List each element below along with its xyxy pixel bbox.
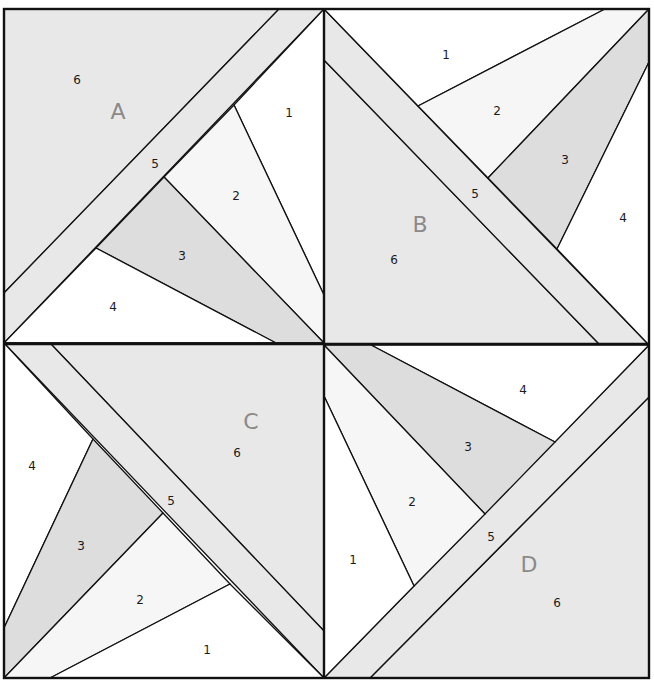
piece-number-label: 4: [519, 383, 527, 397]
quilt-block-diagram: A123456B123456C123456D123456: [0, 0, 654, 681]
piece-number-label: 5: [151, 157, 159, 171]
piece-number-label: 2: [493, 104, 501, 118]
piece-number-label: 6: [233, 446, 241, 460]
block-letter-b: B: [412, 212, 427, 237]
piece-number-label: 5: [471, 187, 479, 201]
block-c: [4, 343, 324, 678]
piece-number-label: 1: [285, 106, 293, 120]
piece-number-label: 3: [464, 440, 472, 454]
block-b: [324, 9, 649, 345]
piece-number-label: 6: [553, 596, 561, 610]
piece-number-label: 1: [349, 553, 357, 567]
piece-number-label: 4: [619, 211, 627, 225]
piece-number-label: 6: [73, 73, 81, 87]
piece-number-label: 1: [442, 48, 450, 62]
piece-number-label: 4: [109, 300, 117, 314]
block-letter-a: A: [110, 99, 125, 124]
piece-number-label: 3: [178, 249, 186, 263]
piece-number-label: 5: [487, 530, 495, 544]
piece-number-label: 2: [232, 189, 240, 203]
piece-number-label: 3: [77, 539, 85, 553]
piece-number-label: 2: [408, 495, 416, 509]
piece-number-label: 6: [390, 253, 398, 267]
block-letter-d: D: [521, 552, 538, 577]
block-letter-c: C: [243, 409, 258, 434]
piece-number-label: 3: [561, 153, 569, 167]
piece-number-label: 2: [136, 593, 144, 607]
piece-number-label: 1: [203, 643, 211, 657]
block-d: [324, 345, 649, 678]
block-a: [4, 9, 324, 343]
piece-number-label: 5: [167, 494, 175, 508]
piece-number-label: 4: [28, 459, 36, 473]
